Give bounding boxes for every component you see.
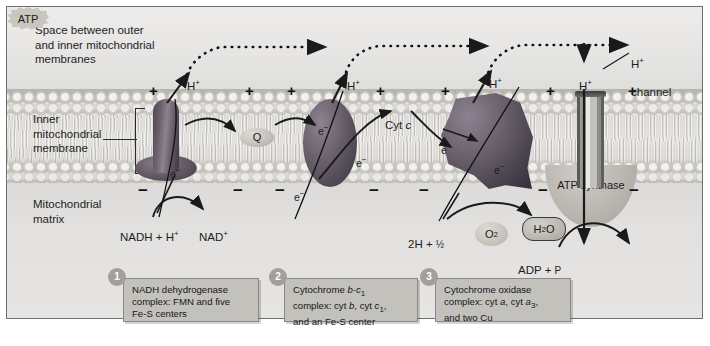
charge-negative: − [369,183,379,198]
caption-2-subscript: 1 [361,289,365,298]
proton-charge: + [355,78,360,87]
electron-charge: − [324,123,329,132]
cytochrome-c-label: Cyt c [385,103,411,132]
charge-positive: + [287,83,296,98]
electron-label: e− [318,106,329,138]
caption-2-line-3: and an Fe-S center [293,316,410,328]
caption-3-line-2: complex: cyt a, cyt a3, [444,296,563,312]
o2-subscript: 2 [494,230,498,239]
substrate-2h-half-o2: 2H + ½ [408,222,444,252]
inner-membrane-label: Inner mitochondrial membrane [33,112,101,156]
charge-negative: − [629,183,639,198]
caption-complex-i: 1 NADH dehydrogenase complex: FMN and fi… [123,278,259,322]
channel-charge: + [639,56,644,65]
charge-negative: − [538,183,548,198]
caption-badge-1: 1 [108,268,126,286]
adp-phosphate-label: ADP + P [518,248,561,278]
electron-label: e− [170,149,181,181]
caption-complex-iv: 3 Cytochrome oxidase complex: cyt a, cyt… [435,278,571,322]
caption-3-l2-plain: complex: cyt [444,296,500,307]
caption-1-line-3: Fe-S centers [132,308,251,320]
adp-text: ADP + [518,264,555,276]
charge-positive: + [376,83,385,98]
electron-transport-chain-figure: Space between outer and inner mitochondr… [0,0,710,346]
electron-charge: − [362,155,367,164]
electron-label: e− [294,172,305,204]
nad-text: NAD [199,230,223,242]
electron-label: e− [441,125,452,157]
ubiquinone-q-carrier: Q [240,128,274,147]
proton-charge: + [587,78,592,87]
phosphate-text: P [555,265,562,276]
caption-1-line-2: complex: FMN and five [132,296,251,308]
proton-label-channel-inflow: H+ [579,61,592,93]
nadh-text: NADH + H [120,230,174,242]
two-h-text: 2H + [408,238,436,250]
nad-label: NAD+ [199,212,228,244]
h2o-h: H [534,223,542,235]
charge-negative: − [275,183,285,198]
caption-2-line-1: Cytochrome b-c1 [293,284,410,300]
caption-2-l2-plain: complex: cyt [293,300,349,311]
electron-charge: − [447,142,452,151]
proton-label-complex-iv: H+ [489,59,502,91]
atp-synthase-proton-channel [577,94,604,188]
proton-charge: + [195,78,200,87]
membrane-label-leader-line [103,139,137,140]
nad-charge: + [223,229,228,238]
h2o-o: O [546,223,555,235]
electron-charge: − [500,162,505,171]
nadh-charge: + [174,229,179,238]
caption-1-line-1: NADH dehydrogenase [132,284,251,296]
q-label: Q [240,128,274,147]
proton-charge: + [497,76,502,85]
charge-negative: − [233,183,243,198]
caption-2-italic: b-c [347,284,360,295]
charge-negative: − [138,183,148,198]
charge-positive: + [149,83,158,98]
atp-text: ATP [18,13,39,25]
proton-label-complex-iii: H+ [347,61,360,93]
electron-label: e− [494,145,505,177]
charge-positive: + [245,83,254,98]
caption-complex-iii: 2 Cytochrome b-c1 complex: cyt b, cyt c1… [284,278,418,322]
half-fraction: ½ [436,239,444,250]
caption-badge-3: 3 [420,268,438,286]
complex-iii-cytochrome-bc1 [303,99,357,187]
charge-negative: − [419,183,429,198]
figure-frame: Space between outer and inner mitochondr… [6,6,703,319]
caption-2-l2-mid: , cyt [354,300,374,311]
caption-3-l2-mid: , cyt [505,296,525,307]
electron-label: e− [356,138,367,170]
matrix-label: Mitochondrial matrix [33,197,101,226]
oxygen-molecule: O2 [475,222,508,246]
proton-label-complex-i: H+ [187,61,200,93]
caption-2-l2-end: , [384,300,387,311]
intermembrane-space-label: Space between outer and inner mitochondr… [35,23,155,67]
cyt-c-italic: c [405,119,411,131]
caption-3-line-1: Cytochrome oxidase [444,284,563,296]
water-molecule: H2O [522,217,566,241]
proton-channel-label: H+ channel [631,39,671,100]
nadh-label: NADH + H+ [120,212,179,244]
charge-positive: + [546,83,555,98]
cyt-c-prefix: Cyt [385,119,405,131]
caption-3-line-3: and two Cu [444,312,563,324]
caption-3-l2-end: , [535,296,538,307]
caption-2-plain: Cytochrome [293,284,347,295]
caption-badge-2: 2 [269,268,287,286]
electron-charge: − [176,166,181,175]
o2-text: O [485,228,494,240]
caption-2-line-2: complex: cyt b, cyt c1, [293,300,410,316]
charge-positive: + [441,83,450,98]
channel-word: channel [631,86,671,98]
electron-charge: − [300,189,305,198]
